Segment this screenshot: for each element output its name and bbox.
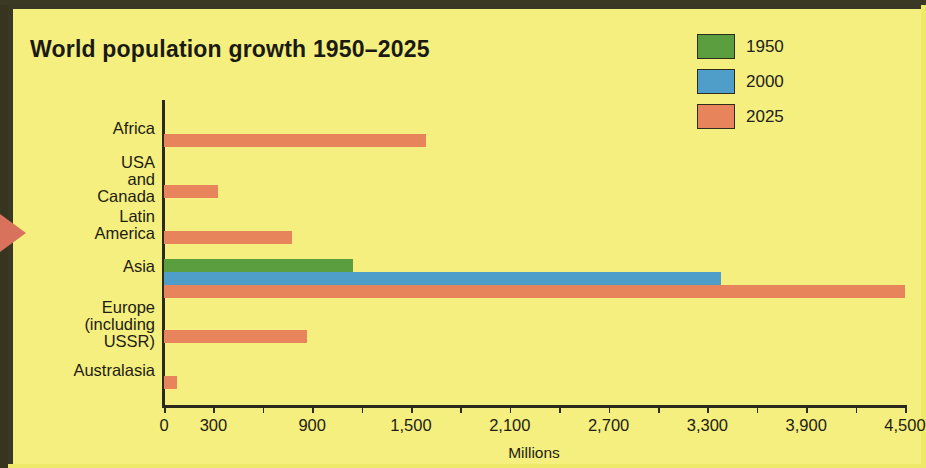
x-axis-tick xyxy=(510,405,512,413)
x-axis-tick xyxy=(559,405,561,413)
x-axis-tick-label: 3,300 xyxy=(687,416,728,435)
x-axis-tick xyxy=(213,405,215,413)
x-axis-tick xyxy=(164,405,166,413)
bar xyxy=(164,376,177,389)
y-axis-category-label: USA and Canada xyxy=(97,154,155,205)
x-axis-tick-label: 300 xyxy=(200,416,228,435)
left-arrow-marker-icon xyxy=(0,214,26,252)
x-axis-tick xyxy=(856,405,858,413)
x-axis-tick-label: 2,100 xyxy=(489,416,530,435)
x-axis-tick xyxy=(609,405,611,413)
chart-page: World population growth 1950–2025 195020… xyxy=(0,0,926,468)
bar xyxy=(164,134,426,147)
bar xyxy=(164,259,353,272)
y-axis-category-label: Australasia xyxy=(73,362,155,379)
bar xyxy=(164,231,292,244)
legend-label: 1950 xyxy=(746,37,784,57)
x-axis-tick xyxy=(312,405,314,413)
x-axis-tick xyxy=(905,405,907,413)
x-axis-tick xyxy=(263,405,265,413)
x-axis-tick-label: 0 xyxy=(159,416,168,435)
x-axis-title: Millions xyxy=(508,444,560,462)
x-axis-tick xyxy=(362,405,364,413)
y-axis-category-label: Asia xyxy=(123,258,155,275)
x-axis-tick xyxy=(707,405,709,413)
legend-item: 2000 xyxy=(697,69,784,94)
x-axis-tick-label: 4,500 xyxy=(884,416,925,435)
x-axis-tick xyxy=(460,405,462,413)
legend-swatch xyxy=(697,34,735,59)
x-axis-tick-label: 3,900 xyxy=(786,416,827,435)
x-axis-tick-label: 1,500 xyxy=(390,416,431,435)
bar xyxy=(164,285,905,298)
x-axis-tick xyxy=(411,405,413,413)
legend-item: 1950 xyxy=(697,34,784,59)
bar xyxy=(164,272,721,285)
plot-area: Millions 03009001,5002,1002,7003,3003,90… xyxy=(162,100,907,405)
x-axis-tick xyxy=(757,405,759,413)
y-axis-category-label: Africa xyxy=(113,120,155,137)
x-axis-tick xyxy=(658,405,660,413)
x-axis-line xyxy=(162,405,907,408)
bar xyxy=(164,330,307,343)
bar xyxy=(164,185,218,198)
legend-swatch xyxy=(697,69,735,94)
chart-title: World population growth 1950–2025 xyxy=(30,36,430,63)
x-axis-tick-label: 900 xyxy=(298,416,326,435)
y-axis-category-label: Europe (including USSR) xyxy=(84,299,155,350)
x-axis-tick xyxy=(806,405,808,413)
legend-label: 2000 xyxy=(746,72,784,92)
x-axis-tick-label: 2,700 xyxy=(588,416,629,435)
y-axis-category-label: Latin America xyxy=(95,208,156,242)
